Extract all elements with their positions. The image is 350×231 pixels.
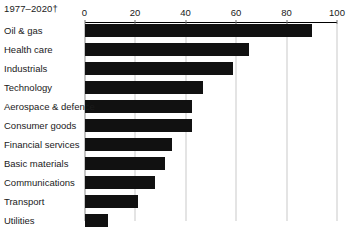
bar bbox=[85, 176, 156, 189]
category-label: Financial services bbox=[4, 138, 80, 151]
bar bbox=[85, 100, 192, 113]
category-label: Basic materials bbox=[4, 157, 68, 170]
x-axis-tick-label: 0 bbox=[82, 7, 87, 18]
bar bbox=[85, 24, 312, 37]
bar bbox=[85, 62, 234, 75]
chart-period-subtitle: 1977–2020† bbox=[4, 3, 58, 14]
x-axis-tick-label: 20 bbox=[130, 7, 141, 18]
bar bbox=[85, 195, 138, 208]
category-label: Consumer goods bbox=[4, 119, 76, 132]
bar bbox=[85, 43, 249, 56]
category-label: Aerospace & defence bbox=[4, 100, 95, 113]
gridline bbox=[337, 24, 338, 221]
category-label: Communications bbox=[4, 176, 75, 189]
category-label: Utilities bbox=[4, 214, 35, 227]
bar bbox=[85, 157, 166, 170]
category-label: Health care bbox=[4, 43, 53, 56]
y-axis-category-labels: Oil & gasHealth careIndustrialsTechnolog… bbox=[0, 24, 80, 221]
x-axis-tick-label: 100 bbox=[329, 7, 345, 18]
bar-chart: 1977–2020† 020406080100 Oil & gasHealth … bbox=[0, 0, 350, 231]
bar bbox=[85, 138, 172, 151]
bar bbox=[85, 214, 109, 227]
category-label: Industrials bbox=[4, 62, 47, 75]
x-axis-tick-label: 40 bbox=[180, 7, 191, 18]
category-label: Oil & gas bbox=[4, 24, 43, 37]
plot-area: 020406080100 bbox=[85, 24, 338, 221]
category-label: Transport bbox=[4, 195, 44, 208]
x-axis-tick-label: 80 bbox=[281, 7, 292, 18]
gridline bbox=[286, 24, 287, 221]
x-axis-tick-label: 60 bbox=[231, 7, 242, 18]
bar bbox=[85, 119, 192, 132]
category-label: Technology bbox=[4, 81, 52, 94]
bar bbox=[85, 81, 204, 94]
x-axis-line bbox=[85, 22, 338, 23]
